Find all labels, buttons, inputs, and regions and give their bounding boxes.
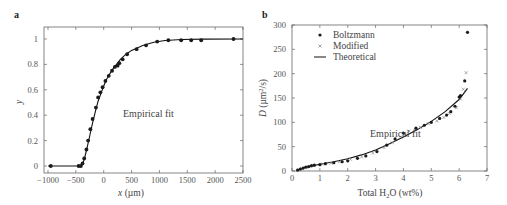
boltzmann-point <box>296 168 299 171</box>
boltzmann-point <box>356 157 359 160</box>
x-tick-label: 500 <box>125 175 138 185</box>
data-point <box>101 85 105 89</box>
x-axis-label-a: x (µm) <box>117 188 144 199</box>
data-point <box>117 61 121 65</box>
x-tick-label: 2500 <box>235 175 252 185</box>
modified-points-b <box>297 71 467 171</box>
legend-theoretical-label: Theoretical <box>333 52 377 62</box>
y-tick-label: 0.4 <box>27 110 38 120</box>
boltzmann-point <box>466 31 469 34</box>
y-tick-label: 300 <box>273 20 286 30</box>
boltzmann-point <box>324 162 327 165</box>
y-axis-label-a: y <box>14 99 24 105</box>
data-point <box>144 43 148 47</box>
y-tick-label: 100 <box>273 117 286 127</box>
data-point <box>121 57 125 61</box>
boltzmann-point <box>459 94 462 97</box>
x-tick-label: 4 <box>401 173 406 183</box>
y-tick-label: 200 <box>273 69 286 79</box>
y-axis-label-b-unit-post: /s) <box>258 79 269 89</box>
x-axis-label-b-pre: Total H <box>358 188 387 198</box>
boltzmann-point <box>463 79 466 82</box>
x-tick-label: 0 <box>102 175 106 185</box>
data-point <box>155 40 159 44</box>
data-point <box>110 69 114 73</box>
boltzmann-point <box>375 150 378 153</box>
x-tick-label: 2 <box>346 173 350 183</box>
y-tick-label: 0 <box>282 166 286 176</box>
x-axis-label-b-post: O (wt%) <box>389 188 422 199</box>
chart-panel-a: a −1000−5000500100015002000250000.20.40.… <box>14 9 252 199</box>
data-point <box>49 164 53 168</box>
data-point <box>189 38 193 42</box>
axis-ticks-a: −1000−5000500100015002000250000.20.40.60… <box>27 27 251 185</box>
boltzmann-point <box>430 121 433 124</box>
data-point <box>91 117 95 121</box>
x-tick-label: 1000 <box>151 175 168 185</box>
data-point <box>125 52 129 56</box>
y-axis-label-b-unit: (µm <box>258 91 269 110</box>
x-tick-label: 2000 <box>207 175 224 185</box>
y-tick-label: 0.2 <box>27 136 38 146</box>
figure: a −1000−5000500100015002000250000.20.40.… <box>0 0 507 205</box>
boltzmann-point <box>423 124 426 127</box>
x-tick-label: −500 <box>67 175 85 185</box>
boltzmann-point <box>438 117 441 120</box>
y-tick-label: 150 <box>273 93 286 103</box>
y-tick-label: 1 <box>34 34 38 44</box>
legend-modified-marker-icon <box>319 45 322 48</box>
x-tick-label: 0 <box>290 173 294 183</box>
boltzmann-point <box>364 154 367 157</box>
data-point <box>81 162 85 166</box>
x-tick-label: 5 <box>429 173 433 183</box>
boltzmann-point <box>445 113 448 116</box>
data-point <box>98 90 102 94</box>
annotation-empirical-fit-b: Empirical fit <box>370 128 421 139</box>
boltzmann-points-b <box>296 31 469 172</box>
boltzmann-point <box>385 144 388 147</box>
panel-label-b: b <box>262 9 268 20</box>
x-axis-unit-a: (µm) <box>122 188 144 199</box>
data-point <box>103 79 107 83</box>
boltzmann-point <box>346 159 349 162</box>
data-point <box>94 106 98 110</box>
chart-panel-b: b 01234567050100150200250300 Empirical f… <box>257 9 489 199</box>
boltzmann-point <box>449 110 452 113</box>
data-point <box>232 37 236 41</box>
x-tick-label: −1000 <box>37 175 59 185</box>
data-point <box>107 74 111 78</box>
data-point <box>96 96 100 100</box>
data-point <box>85 148 89 152</box>
boltzmann-point <box>302 166 305 169</box>
boltzmann-point <box>304 166 307 169</box>
data-point <box>82 156 86 160</box>
y-tick-label: 50 <box>278 142 287 152</box>
x-tick-label: 7 <box>485 173 489 183</box>
x-tick-label: 1500 <box>179 175 196 185</box>
y-axis-label-b-var: D <box>258 110 268 118</box>
data-points-a <box>49 37 236 168</box>
boltzmann-point <box>307 165 310 168</box>
boltzmann-point <box>332 161 335 164</box>
legend-boltzmann-marker-icon <box>318 33 321 36</box>
fit-line-a <box>48 39 243 166</box>
x-tick-label: 1 <box>318 173 322 183</box>
fit-curve <box>48 39 243 166</box>
data-point <box>166 38 170 42</box>
data-point <box>179 38 183 42</box>
legend-boltzmann-label: Boltzmann <box>333 30 375 40</box>
x-axis-label-b: Total H2O (wt%) <box>358 188 423 199</box>
y-tick-label: 0.6 <box>27 85 38 95</box>
legend-modified-label: Modified <box>333 41 369 51</box>
data-point <box>86 139 90 143</box>
boltzmann-point <box>313 164 316 167</box>
legend-b: Boltzmann Modified Theoretical <box>314 30 377 62</box>
boltzmann-point <box>318 163 321 166</box>
y-tick-label: 250 <box>273 44 286 54</box>
boltzmann-point <box>453 105 456 108</box>
data-point <box>135 47 139 51</box>
panel-label-a: a <box>14 9 19 20</box>
annotation-empirical-fit-a: Empirical fit <box>123 108 174 119</box>
boltzmann-point <box>310 164 313 167</box>
y-tick-label: 0 <box>34 161 38 171</box>
